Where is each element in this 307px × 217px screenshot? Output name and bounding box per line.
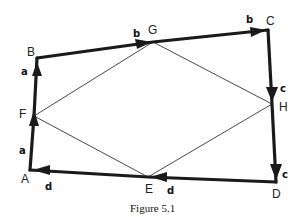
vector-label-CH: c <box>280 83 286 94</box>
point-label-A: A <box>21 172 29 186</box>
inner-rhombus <box>34 42 272 177</box>
point-label-D: D <box>272 187 281 201</box>
point-label-F: F <box>19 107 26 121</box>
figure-caption: Figure 5.1 <box>130 202 175 214</box>
vector-label-EA: d <box>45 181 52 192</box>
arrowhead-left-icon <box>33 165 50 175</box>
vector-label-GC: b <box>246 14 253 25</box>
point-label-G: G <box>148 23 157 37</box>
point-label-E: E <box>145 182 153 196</box>
vector-label-HD: c <box>282 169 288 180</box>
arrowhead-left-icon <box>150 172 167 182</box>
point-label-H: H <box>279 100 288 114</box>
arrowhead-up-icon <box>32 62 42 76</box>
vector-label-FB: a <box>21 66 28 77</box>
line-HE <box>148 104 272 177</box>
vector-diagram: A F B G C H D E a a b b c c d d Figure 5… <box>0 0 307 217</box>
line-GH <box>153 42 272 104</box>
line-EF <box>34 116 148 177</box>
vector-label-AF: a <box>19 145 26 156</box>
line-FG <box>34 42 153 116</box>
outer-vector-path <box>30 30 276 182</box>
vector-label-BG: b <box>133 28 140 39</box>
point-label-C: C <box>266 14 275 28</box>
path-D-A <box>30 170 276 182</box>
vector-label-DE: d <box>167 185 174 196</box>
arrowhead-down-icon <box>270 164 282 180</box>
arrowhead-down-icon <box>266 87 278 102</box>
point-label-B: B <box>27 45 35 59</box>
arrowheads <box>29 27 282 182</box>
